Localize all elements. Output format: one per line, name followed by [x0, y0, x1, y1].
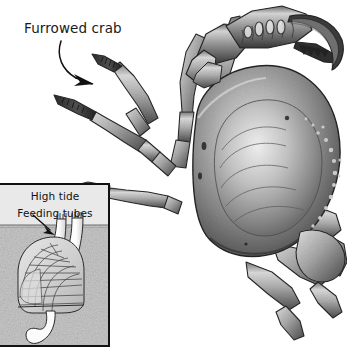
inset-high-tide-label: High tide — [0, 191, 110, 202]
inset-bivalve-shell — [18, 237, 84, 313]
burrow-inset-panel: High tide Feeding tubes — [0, 183, 110, 347]
inset-feeding-tubes-label: Feeding tubes — [0, 208, 110, 219]
figure-container: Furrowed crab — [0, 0, 347, 349]
crab-small-claw-right — [296, 230, 345, 282]
furrowed-crab-arrow — [59, 41, 94, 86]
furrowed-crab-label: Furrowed crab — [24, 22, 122, 36]
